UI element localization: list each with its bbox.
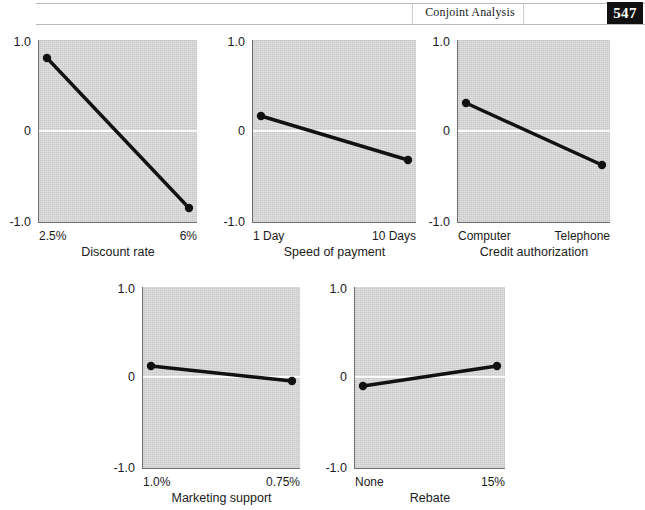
header-divider-right xyxy=(523,3,524,24)
chart-panel-discount-rate: 1.0 0 -1.0 2.5% 6% Discount rate xyxy=(39,40,197,250)
y-tick-bottom: -1.0 xyxy=(101,462,135,474)
y-tick-bottom: -1.0 xyxy=(313,462,347,474)
x-tick-left: None xyxy=(355,476,384,488)
y-tick-mid: 0 xyxy=(211,125,245,137)
chart-panel-speed-of-payment: 1.0 0 -1.0 1 Day 10 Days Speed of paymen… xyxy=(253,40,416,250)
series-line xyxy=(458,40,610,222)
x-tick-right: 15% xyxy=(445,476,505,488)
x-tick-left: 1 Day xyxy=(253,230,284,242)
x-tick-right: 0.75% xyxy=(230,476,300,488)
x-axis-title: Discount rate xyxy=(19,246,217,259)
chart-panel-credit-authorization: 1.0 0 -1.0 Computer Telephone Credit aut… xyxy=(458,40,610,250)
y-tick-bottom: -1.0 xyxy=(416,216,450,228)
series-line xyxy=(39,40,197,222)
x-axis-line xyxy=(457,222,610,223)
series-line xyxy=(355,287,505,468)
page-header: Conjoint Analysis 547 xyxy=(0,0,645,26)
x-tick-right: Telephone xyxy=(530,230,610,242)
series-line xyxy=(253,40,416,222)
y-tick-mid: 0 xyxy=(0,125,31,137)
x-tick-left: Computer xyxy=(458,230,511,242)
x-axis-title: Rebate xyxy=(335,492,525,505)
x-axis-line xyxy=(38,222,197,223)
x-tick-right: 10 Days xyxy=(346,230,416,242)
y-tick-mid: 0 xyxy=(313,371,347,383)
y-tick-top: 1.0 xyxy=(416,36,450,48)
y-tick-bottom: -1.0 xyxy=(0,216,31,228)
header-rule-top xyxy=(36,3,645,4)
header-rule-bottom xyxy=(36,24,645,25)
y-tick-top: 1.0 xyxy=(101,283,135,295)
header-divider-left xyxy=(412,3,413,24)
series-line xyxy=(143,287,300,468)
chart-panel-rebate: 1.0 0 -1.0 None 15% Rebate xyxy=(355,287,505,492)
y-tick-top: 1.0 xyxy=(0,36,31,48)
x-axis-title: Marketing support xyxy=(123,492,320,505)
x-tick-left: 1.0% xyxy=(143,476,170,488)
y-tick-top: 1.0 xyxy=(211,36,245,48)
x-axis-line xyxy=(252,222,416,223)
x-tick-left: 2.5% xyxy=(39,230,66,242)
x-tick-right: 6% xyxy=(137,230,197,242)
chart-panel-marketing-support: 1.0 0 -1.0 1.0% 0.75% Marketing support xyxy=(143,287,300,492)
y-tick-top: 1.0 xyxy=(313,283,347,295)
y-tick-mid: 0 xyxy=(416,125,450,137)
running-head-title: Conjoint Analysis xyxy=(420,5,520,20)
x-axis-line xyxy=(354,468,505,469)
y-tick-mid: 0 xyxy=(101,371,135,383)
x-axis-title: Speed of payment xyxy=(233,246,436,259)
page-number-badge: 547 xyxy=(607,2,643,24)
y-tick-bottom: -1.0 xyxy=(211,216,245,228)
x-axis-line xyxy=(142,468,300,469)
x-axis-title: Credit authorization xyxy=(436,246,632,259)
